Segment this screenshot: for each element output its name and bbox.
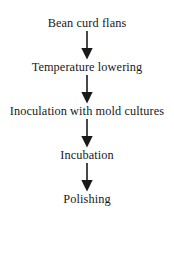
flowchart-node-step-2: Temperature lowering <box>32 60 143 74</box>
flowchart-node-step-4: Incubation <box>60 148 114 162</box>
flowchart-node-step-5: Polishing <box>63 192 110 206</box>
arrow-down-icon <box>77 30 97 60</box>
arrow-down-icon <box>77 162 97 192</box>
flowchart-diagram: Bean curd flans Temperature lowering Ino… <box>0 0 174 255</box>
flowchart-node-step-1: Bean curd flans <box>48 16 127 30</box>
arrow-down-icon <box>77 118 97 148</box>
arrow-down-icon <box>77 74 97 104</box>
flowchart-node-step-3: Inoculation with mold cultures <box>10 104 164 118</box>
